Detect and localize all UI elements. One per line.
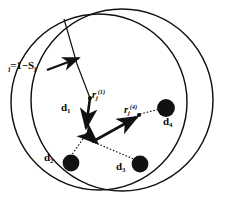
node-d2 — [63, 155, 80, 172]
dotted-link-d3 — [91, 141, 136, 160]
label-d2: d2 — [44, 152, 53, 165]
vector-rj1-arrow — [86, 98, 90, 128]
label-d4: d4 — [163, 116, 172, 129]
radius-formula-label: j=1−Sj — [8, 60, 36, 73]
vector-rj4-label: rj(4) — [124, 104, 137, 116]
label-d3: d3 — [116, 161, 125, 174]
vector-rj4-arrow — [92, 117, 137, 142]
figure-canvas: j=1−Sj rj(1) rj(4) d1 d2 d3 d4 — [0, 0, 225, 217]
dotted-link-d4 — [140, 109, 160, 114]
radius-label-arrow — [47, 58, 79, 70]
label-d1: d1 — [61, 102, 70, 115]
node-d3 — [132, 156, 149, 173]
vector-rj1-label: rj(1) — [92, 89, 105, 101]
dotted-link-d2 — [71, 136, 85, 156]
diagram-svg — [0, 0, 225, 217]
